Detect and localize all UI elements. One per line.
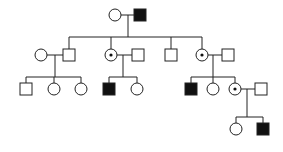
male-unaffected-II-7 [222, 49, 234, 61]
male-unaffected-II-5 [165, 49, 177, 61]
male-affected-III-6 [185, 83, 197, 95]
female-unaffected-II-1 [35, 49, 47, 61]
female-unaffected-III-2 [48, 83, 60, 95]
female-unaffected-III-5 [131, 83, 143, 95]
male-unaffected-III-1 [20, 83, 32, 95]
generation-2 [35, 49, 234, 77]
female-unaffected-III-3 [75, 83, 87, 95]
female-unaffected-III-7 [207, 83, 219, 95]
female-unaffected-IV-1 [230, 123, 242, 135]
carrier-dot-icon [200, 53, 203, 56]
female-unaffected-I-1 [109, 9, 121, 21]
carrier-dot-icon [233, 87, 236, 90]
male-unaffected-III-9 [255, 83, 267, 95]
generation-4 [230, 117, 269, 135]
generation-1 [109, 9, 146, 37]
male-unaffected-II-2 [63, 49, 75, 61]
male-affected-IV-2 [257, 123, 269, 135]
male-unaffected-II-4 [132, 49, 144, 61]
male-affected-III-4 [103, 83, 115, 95]
carrier-dot-icon [109, 53, 112, 56]
pedigree-chart [0, 0, 283, 152]
generation-3 [20, 77, 267, 117]
male-affected-I-2 [134, 9, 146, 21]
